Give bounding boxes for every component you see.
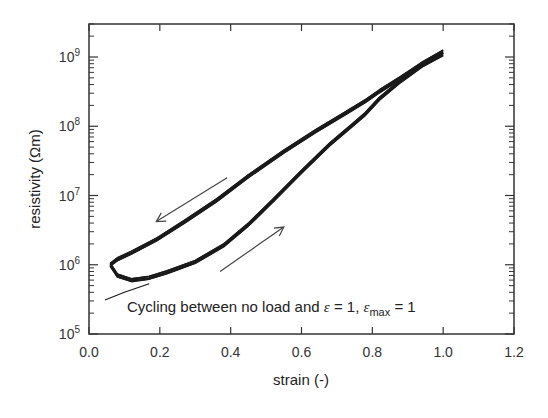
plot-frame (89, 24, 514, 334)
x-tick-label: 1.0 (433, 344, 453, 360)
annotation: Cycling between no load and ε = 1, εmax … (127, 298, 416, 318)
y-axis-ticks: 105106107108109 (59, 24, 514, 342)
data-series (105, 50, 443, 300)
y-axis-label: resistivity (Ωm) (26, 129, 43, 229)
series-loading (110, 56, 443, 282)
y-tick-label: 108 (59, 116, 81, 134)
x-tick-label: 0.6 (292, 344, 312, 360)
resistivity-strain-chart: 0.00.20.40.60.81.01.2 105106107108109 st… (0, 0, 548, 418)
y-tick-label: 105 (59, 324, 81, 342)
x-tick-label: 1.2 (504, 344, 524, 360)
y-tick-label: 106 (59, 255, 81, 273)
y-tick-label: 107 (59, 186, 81, 204)
x-tick-label: 0.0 (79, 344, 99, 360)
arrow-loading (220, 227, 284, 271)
x-axis-label: strain (-) (273, 371, 329, 388)
x-tick-label: 0.4 (221, 344, 241, 360)
y-tick-label: 109 (59, 47, 81, 65)
x-tick-label: 0.8 (363, 344, 383, 360)
series-loading (110, 53, 443, 279)
x-tick-label: 0.2 (150, 344, 170, 360)
direction-arrows (156, 178, 283, 272)
